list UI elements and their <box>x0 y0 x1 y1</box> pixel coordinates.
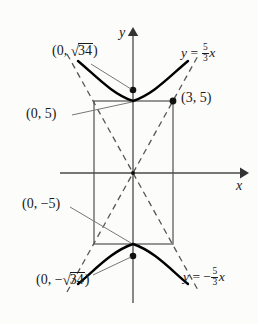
asymptote-negative-denominator: 3 <box>211 277 218 288</box>
label-asymptote-positive: y = 53x <box>181 43 215 64</box>
radicand-upper: 34 <box>78 43 93 59</box>
leader-point-0-neg5 <box>70 207 131 243</box>
asymptote-positive-fraction: 53 <box>202 43 209 64</box>
asymptote-positive-denominator: 3 <box>202 53 209 64</box>
asymptote-negative-variable: x <box>219 269 225 284</box>
x-axis-arrowhead <box>240 168 249 179</box>
corner-3-5-point <box>170 98 177 105</box>
asymptote-negative-fraction: 53 <box>211 267 218 288</box>
asymptote-positive-numerator: 5 <box>202 43 209 53</box>
y-axis-arrowhead <box>128 27 138 36</box>
label-point-0-5: (0, 5) <box>26 107 56 121</box>
label-focus-upper: (0, √34) <box>52 43 98 59</box>
x-axis-label: x <box>236 179 242 193</box>
radicand-lower: 34 <box>70 272 85 288</box>
asymptote-negative-numerator: 5 <box>211 267 218 277</box>
y-axis-label: y <box>119 26 125 40</box>
radical-lower: √34 <box>63 272 85 288</box>
focus-lower-point <box>130 253 137 260</box>
label-focus-lower-suffix: ) <box>85 272 90 287</box>
label-focus-lower-prefix: (0, − <box>36 272 63 287</box>
label-focus-upper-suffix: ) <box>93 43 98 58</box>
origin-point <box>131 171 135 175</box>
focus-upper-point <box>130 87 137 94</box>
asymptote-positive-equals: = <box>187 45 201 60</box>
label-point-0-neg5: (0, −5) <box>22 197 60 211</box>
asymptote-positive-variable: x <box>209 45 215 60</box>
label-point-3-5: (3, 5) <box>181 91 211 105</box>
label-asymptote-negative: y = −53x <box>183 267 225 288</box>
coordinate-axes <box>60 27 249 303</box>
asymptote-negative-equals: = − <box>189 269 211 284</box>
label-focus-lower: (0, −√34) <box>36 272 89 288</box>
hyperbola-figure: (0, √34) (0, 5) (0, −5) (0, −√34) (3, 5)… <box>0 0 258 324</box>
label-focus-upper-prefix: (0, <box>52 43 71 58</box>
radical-upper: √34 <box>71 43 93 59</box>
leader-point-0-5 <box>72 102 132 115</box>
